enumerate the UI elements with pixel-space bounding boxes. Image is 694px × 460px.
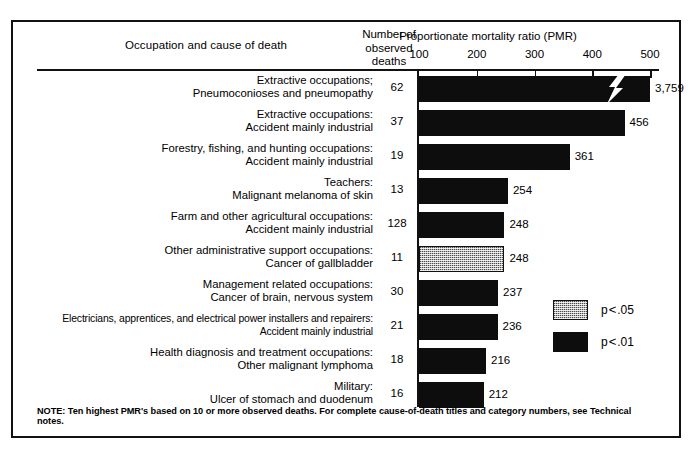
x-axis-tick-mark-200	[477, 69, 479, 78]
row-label-cause: Other malignant lymphoma	[21, 359, 373, 372]
legend-swatch-solid	[553, 332, 588, 352]
bar-value-label: 248	[509, 218, 528, 230]
row-label-occupation: Extractive occupations;	[21, 74, 373, 87]
bar-456	[419, 110, 625, 136]
bar-216	[419, 348, 486, 374]
row-label-occupation-and-cause: Farm and other agricultural occupations:…	[21, 210, 373, 236]
bar-248	[419, 212, 504, 238]
row-label-cause: Malignant melanoma of skin	[21, 189, 373, 202]
row-label-cause: Accident mainly industrial	[21, 223, 373, 236]
chart-legend: p<.05p<.01	[553, 298, 673, 362]
row-label-occupation: Health diagnosis and treatment occupatio…	[21, 346, 373, 359]
bar-236	[419, 314, 498, 340]
row-observed-deaths: 62	[379, 81, 415, 93]
row-observed-deaths: 16	[379, 387, 415, 399]
chart-row: Extractive occupations:Accident mainly i…	[13, 106, 679, 140]
legend-less-than-icon: <	[608, 302, 618, 317]
bar-254	[419, 178, 508, 204]
row-observed-deaths: 19	[379, 149, 415, 161]
legend-item-05: p<.05	[553, 298, 673, 330]
row-label-cause: Accident mainly industrial	[21, 155, 373, 168]
x-axis-tick-labels: 100200300400500	[13, 48, 679, 64]
row-label-occupation: Extractive occupations:	[21, 108, 373, 121]
bar-value-label: 254	[513, 184, 532, 196]
bar-3759	[419, 76, 650, 102]
plot-area: Extractive occupations;Pneumoconioses an…	[13, 70, 679, 410]
chart-row: Forestry, fishing, and hunting occupatio…	[13, 140, 679, 174]
row-label-occupation: Teachers:	[21, 176, 373, 189]
legend-p-symbol: p	[601, 335, 608, 349]
row-label-occupation-and-cause: Management related occupations:Cancer of…	[21, 278, 373, 304]
pmr-chart-figure: Occupation and cause of death Number of …	[11, 20, 681, 438]
row-label-occupation-and-cause: Forestry, fishing, and hunting occupatio…	[21, 142, 373, 168]
row-label-cause: Cancer of gallbladder	[21, 257, 373, 270]
x-axis-tick-mark-500	[650, 69, 652, 78]
row-label-cause: Accident mainly industrial	[21, 121, 373, 134]
row-label-occupation-and-cause: Extractive occupations;Pneumoconioses an…	[21, 74, 373, 100]
row-observed-deaths: 21	[379, 319, 415, 331]
row-label-cause: Accident mainly industrial	[21, 325, 373, 338]
legend-item-01: p<.01	[553, 330, 673, 362]
row-label-cause: Cancer of brain, nervous system	[21, 291, 373, 304]
row-label-occupation-and-cause: Teachers:Malignant melanoma of skin	[21, 176, 373, 202]
chart-row: Extractive occupations;Pneumoconioses an…	[13, 72, 679, 106]
bar-248	[419, 246, 504, 272]
legend-less-than-icon: <	[608, 334, 618, 349]
row-label-occupation-and-cause: Other administrative support occupations…	[21, 244, 373, 270]
x-axis-tick-label-200: 200	[457, 48, 497, 60]
row-observed-deaths: 30	[379, 285, 415, 297]
bar-value-label: 212	[489, 388, 508, 400]
legend-threshold: .05	[617, 303, 634, 317]
chart-row: Farm and other agricultural occupations:…	[13, 208, 679, 242]
legend-swatch-stipple	[553, 300, 588, 320]
figure-note: NOTE: Ten highest PMR's based on 10 or m…	[37, 406, 657, 426]
chart-row: Teachers:Malignant melanoma of skin13254	[13, 174, 679, 208]
row-observed-deaths: 37	[379, 115, 415, 127]
bar-value-label: 237	[503, 286, 522, 298]
bar-361	[419, 144, 570, 170]
legend-threshold: .01	[617, 335, 634, 349]
bar-value-label: 216	[491, 354, 510, 366]
axis-title-pmr: Proportionate mortality ratio (PMR)	[313, 30, 663, 42]
row-observed-deaths: 11	[379, 251, 415, 263]
bar-value-label: 236	[503, 320, 522, 332]
row-label-occupation: Electricians, apprentices, and electrica…	[21, 312, 373, 325]
row-label-occupation: Farm and other agricultural occupations:	[21, 210, 373, 223]
row-label-cause: Ulcer of stomach and duodenum	[21, 393, 373, 406]
row-label-occupation-and-cause: Military:Ulcer of stomach and duodenum	[21, 380, 373, 406]
x-axis-tick-mark-300	[535, 69, 537, 78]
legend-label: p<.01	[601, 334, 634, 349]
chart-row: Other administrative support occupations…	[13, 242, 679, 276]
row-label-occupation-and-cause: Health diagnosis and treatment occupatio…	[21, 346, 373, 372]
row-label-occupation: Military:	[21, 380, 373, 393]
row-label-cause: Pneumoconioses and pneumopathy	[21, 87, 373, 100]
bar-value-label: 3,759	[655, 82, 684, 94]
row-observed-deaths: 128	[379, 217, 415, 229]
x-axis-tick-label-500: 500	[630, 48, 670, 60]
row-label-occupation: Management related occupations:	[21, 278, 373, 291]
chart-header: Occupation and cause of death Number of …	[13, 22, 679, 70]
bar-212	[419, 382, 484, 408]
row-observed-deaths: 18	[379, 353, 415, 365]
x-axis-tick-label-100: 100	[399, 48, 439, 60]
legend-p-symbol: p	[601, 303, 608, 317]
bar-237	[419, 280, 498, 306]
row-label-occupation-and-cause: Electricians, apprentices, and electrica…	[21, 312, 373, 338]
row-label-occupation-and-cause: Extractive occupations:Accident mainly i…	[21, 108, 373, 134]
row-observed-deaths: 13	[379, 183, 415, 195]
bar-value-label: 248	[509, 252, 528, 264]
x-axis-tick-label-400: 400	[572, 48, 612, 60]
row-label-occupation: Forestry, fishing, and hunting occupatio…	[21, 142, 373, 155]
x-axis-tick-mark-400	[592, 69, 594, 78]
legend-label: p<.05	[601, 302, 634, 317]
row-label-occupation: Other administrative support occupations…	[21, 244, 373, 257]
bar-value-label: 361	[575, 150, 594, 162]
bar-value-label: 456	[630, 116, 649, 128]
x-axis-tick-label-300: 300	[515, 48, 555, 60]
